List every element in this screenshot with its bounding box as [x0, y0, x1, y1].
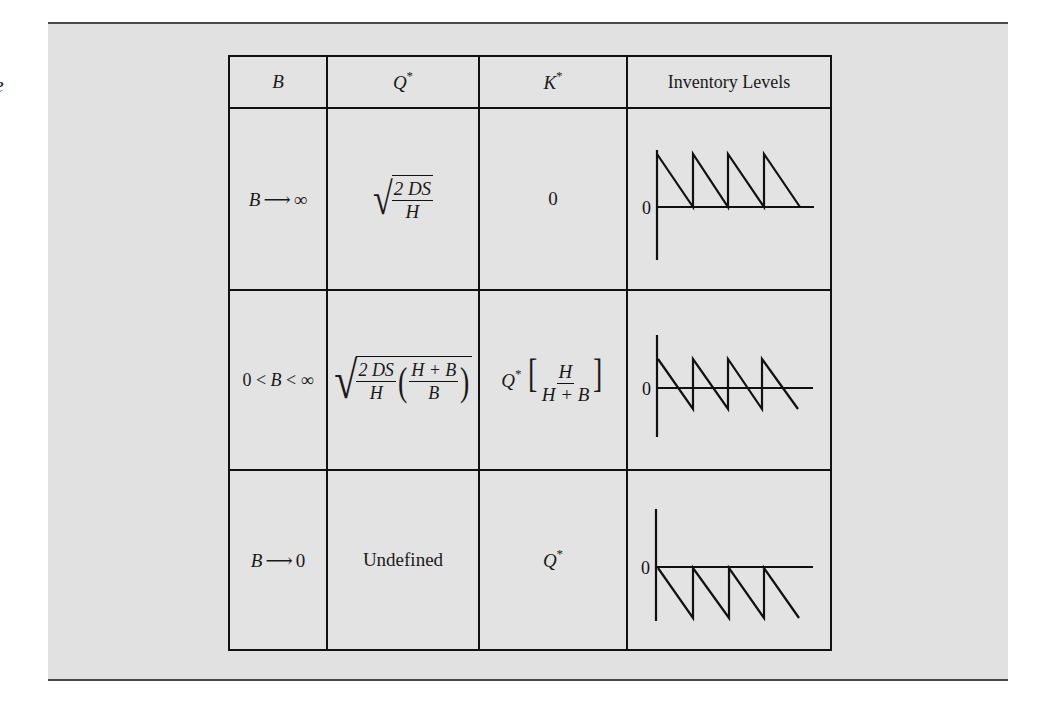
caption-fragment: e [0, 72, 4, 98]
zero-label: 0 [642, 198, 651, 218]
fraction: H + B B [409, 359, 458, 404]
left-bracket: [ [528, 354, 537, 394]
arrow-icon: ⟶ [265, 549, 292, 572]
denominator: B [426, 382, 441, 404]
header-b: B [229, 56, 327, 108]
b-upper: < ∞ [286, 370, 313, 390]
denominator: H [404, 201, 422, 223]
cell-q-star: Undefined [327, 470, 479, 650]
q-symbol: Q [501, 370, 515, 391]
b-symbol: B [249, 189, 261, 210]
fraction: H H + B [540, 361, 592, 406]
radicand: 2 DS H ( H + B B ) [356, 356, 471, 404]
cell-k-star: 0 [479, 108, 627, 290]
header-inventory-levels: Inventory Levels [627, 56, 831, 108]
cell-q-star: √ 2 DS H ( H + B B ) [327, 290, 479, 470]
table-row: 0 < B < ∞ √ 2 DS H ( H + B B ) [229, 290, 831, 470]
inventory-model-table: B Q* K* Inventory Levels B⟶∞ √ 2 DS H 0 … [228, 55, 832, 651]
b-limit: 0 [296, 550, 306, 571]
header-b-symbol: B [272, 71, 284, 92]
header-k-symbol: K [543, 72, 556, 93]
cell-q-star: √ 2 DS H [327, 108, 479, 290]
cell-b: 0 < B < ∞ [229, 290, 327, 470]
cell-b: B⟶0 [229, 470, 327, 650]
sawtooth-plot-no-backorders: 0 [629, 110, 829, 288]
b-lower: 0 < [242, 370, 266, 390]
header-k-star: K* [479, 56, 627, 108]
sawtooth-plot-all-backorders: 0 [629, 472, 829, 648]
arrow-icon: ⟶ [263, 188, 290, 211]
sqrt-expression: √ 2 DS H [373, 175, 433, 223]
cell-inventory-plot: 0 [627, 470, 831, 650]
fraction: 2 DS H [392, 178, 433, 223]
table-header-row: B Q* K* Inventory Levels [229, 56, 831, 108]
header-q-sup: * [407, 68, 414, 83]
radicand: 2 DS H [392, 175, 433, 223]
radical-icon: √ [334, 354, 357, 407]
cell-inventory-plot: 0 [627, 108, 831, 290]
header-k-sup: * [556, 68, 563, 83]
numerator: H + B [409, 359, 458, 382]
b-symbol: B [251, 550, 263, 571]
b-limit: ∞ [294, 189, 308, 210]
zero-label: 0 [642, 379, 651, 399]
header-q-star: Q* [327, 56, 479, 108]
q-sup: * [557, 546, 564, 561]
radical-icon: √ [373, 177, 393, 222]
cell-k-star: Q* [ H H + B ] [479, 290, 627, 470]
numerator: 2 DS [356, 359, 396, 382]
b-symbol: B [271, 370, 282, 390]
table-row: B⟶∞ √ 2 DS H 0 0 [229, 108, 831, 290]
zero-label: 0 [641, 558, 650, 578]
header-q-symbol: Q [393, 72, 407, 93]
numerator: H [557, 361, 575, 384]
cell-k-star: Q* [479, 470, 627, 650]
left-paren: ( [398, 362, 407, 402]
table-row: B⟶0 Undefined Q* 0 [229, 470, 831, 650]
q-symbol: Q [543, 550, 557, 571]
denominator: H + B [540, 384, 592, 406]
q-sup: * [515, 366, 522, 381]
cell-inventory-plot: 0 [627, 290, 831, 470]
right-paren: ) [460, 362, 469, 402]
sqrt-expression: √ 2 DS H ( H + B B ) [334, 356, 471, 404]
sawtooth-plot-partial-backorders: 0 [629, 292, 829, 468]
numerator: 2 DS [392, 178, 433, 201]
right-bracket: ] [593, 354, 602, 394]
fraction: 2 DS H [356, 359, 396, 404]
denominator: H [368, 382, 385, 404]
cell-b: B⟶∞ [229, 108, 327, 290]
